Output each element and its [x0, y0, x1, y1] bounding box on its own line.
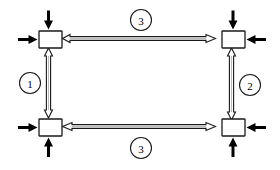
arrow-bottom-right-left-icon	[247, 123, 267, 132]
label-member-top-text: 3	[138, 15, 144, 27]
member-right	[228, 48, 236, 120]
arrow-top-left-right-icon	[18, 35, 38, 44]
label-member-top: 3	[131, 10, 152, 31]
member-top	[63, 35, 216, 43]
label-member-left-text: 1	[27, 78, 33, 90]
arrow-bottom-left-right-icon	[18, 123, 38, 132]
arrow-top-right-left-icon	[247, 35, 267, 44]
diagram-canvas: 1 2 3 3	[0, 0, 280, 170]
arrow-bottom-right-up-icon	[229, 138, 238, 158]
label-member-bottom: 3	[131, 138, 152, 159]
arrow-bottom-left-up-icon	[44, 138, 53, 158]
label-member-bottom-text: 3	[138, 143, 144, 155]
arrow-top-right-down-icon	[229, 11, 238, 30]
node-bottom-left	[39, 119, 62, 136]
member-left	[45, 48, 53, 118]
structural-frame-diagram: 1 2 3 3	[0, 0, 280, 170]
node-bottom-right	[222, 119, 245, 136]
node-top-left	[39, 31, 62, 48]
label-member-right-text: 2	[247, 80, 253, 92]
label-member-right: 2	[240, 75, 261, 96]
label-member-left: 1	[20, 73, 41, 94]
node-top-right	[222, 31, 245, 48]
member-bottom	[63, 123, 216, 131]
arrow-top-left-down-icon	[44, 11, 53, 30]
